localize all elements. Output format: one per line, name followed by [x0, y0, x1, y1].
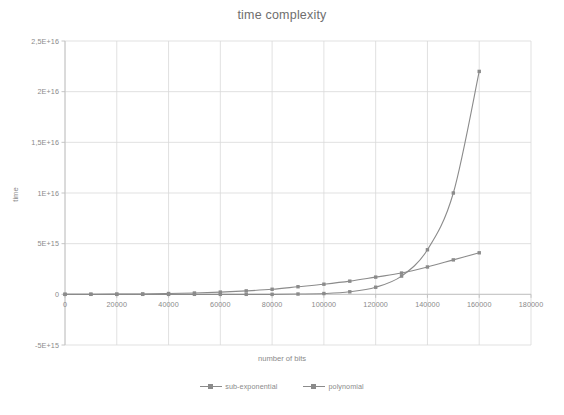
data-point-marker	[322, 292, 325, 295]
data-point-marker	[400, 274, 403, 277]
data-point-marker	[348, 290, 351, 293]
x-axis-tick-label: 40000	[144, 300, 194, 309]
x-axis-tick-label: 120000	[351, 300, 401, 309]
y-axis-tick-label: 1,5E+16	[0, 138, 59, 147]
legend-label: sub-exponential	[225, 382, 277, 391]
legend-item-sub-exponential[interactable]: sub-exponential	[200, 382, 277, 391]
data-point-marker	[89, 293, 92, 296]
data-point-marker	[426, 248, 429, 251]
x-axis-tick-label: 100000	[299, 300, 349, 309]
data-point-marker	[452, 258, 455, 261]
data-point-marker	[115, 292, 118, 295]
legend-marker-icon	[303, 383, 325, 391]
x-axis-tick-label: 0	[40, 300, 90, 309]
y-axis-tick-label: -5E+15	[0, 341, 59, 350]
data-point-marker	[245, 289, 248, 292]
data-point-marker	[167, 292, 170, 295]
data-point-marker	[296, 285, 299, 288]
y-axis-tick-label: 2,5E+16	[0, 37, 59, 46]
data-point-marker	[141, 292, 144, 295]
legend-marker-icon	[200, 383, 222, 391]
data-point-marker	[478, 251, 481, 254]
x-axis-tick-label: 20000	[92, 300, 142, 309]
x-axis-tick-label: 80000	[247, 300, 297, 309]
data-point-marker	[270, 288, 273, 291]
data-point-marker	[426, 265, 429, 268]
data-point-marker	[270, 293, 273, 296]
legend-item-polynomial[interactable]: polynomial	[303, 382, 363, 391]
data-point-marker	[452, 191, 455, 194]
data-point-marker	[219, 290, 222, 293]
data-point-marker	[245, 293, 248, 296]
x-axis-tick-label: 160000	[454, 300, 504, 309]
x-axis-tick-label: 60000	[195, 300, 245, 309]
legend-label: polynomial	[328, 382, 363, 391]
data-point-marker	[296, 292, 299, 295]
y-axis-tick-label: 1E+16	[0, 189, 59, 198]
chart-legend: sub-exponential polynomial	[0, 382, 564, 391]
data-point-marker	[193, 291, 196, 294]
x-axis-title: number of bits	[0, 354, 564, 363]
data-point-marker	[478, 70, 481, 73]
data-point-marker	[348, 279, 351, 282]
data-point-marker	[322, 283, 325, 286]
chart-container: time complexity time number of bits -5E+…	[0, 0, 564, 415]
x-axis-tick-label: 140000	[402, 300, 452, 309]
y-axis-tick-label: 2E+16	[0, 87, 59, 96]
y-axis-tick-label: 5E+15	[0, 239, 59, 248]
data-point-marker	[374, 275, 377, 278]
x-axis-tick-label: 180000	[506, 300, 556, 309]
y-axis-tick-label: 0	[0, 290, 59, 299]
data-point-marker	[63, 293, 66, 296]
plot-area	[0, 0, 564, 415]
data-point-marker	[374, 286, 377, 289]
data-point-marker	[400, 271, 403, 274]
